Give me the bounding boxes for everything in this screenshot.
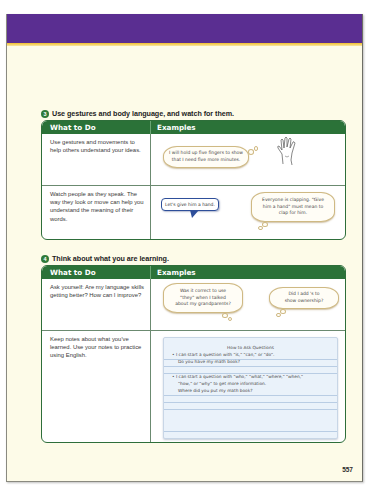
table-row: Use gestures and movements to help other…	[42, 134, 345, 185]
open-hand-icon	[275, 136, 297, 166]
column-header-what-to-do: What to Do	[42, 121, 151, 134]
thinking-table: What to Do Examples Ask yourself: Are my…	[41, 265, 346, 443]
step-number-badge: 4	[41, 255, 49, 263]
notes-line: Where did you put my math book?	[172, 387, 329, 394]
table-header: What to Do Examples	[42, 121, 345, 134]
table-row: Keep notes about what you've learned. Us…	[42, 330, 345, 443]
thought-bubble: I will hold up five fingers to show that…	[163, 146, 249, 168]
notes-title: How to Ask Questions	[172, 344, 329, 351]
banner-stripe	[7, 43, 362, 46]
examples-cell: Let's give him a hand. Everyone is clapp…	[151, 186, 345, 240]
column-header-examples: Examples	[151, 121, 345, 134]
thought-bubble: Was it correct to use "they" when I talk…	[163, 283, 243, 313]
section-3-heading: 3 Use gestures and body language, and wa…	[41, 109, 234, 118]
section-3-title: Use gestures and body language, and watc…	[52, 109, 234, 118]
thought-bubble: Everyone is clapping. "Give him a hand" …	[251, 192, 335, 222]
notes-page: How to Ask Questions • I can start a que…	[163, 337, 338, 439]
table-header: What to Do Examples	[42, 266, 345, 279]
table-row: Watch people as they speak. The way they…	[42, 185, 345, 240]
what-to-do-cell: Use gestures and movements to help other…	[42, 134, 151, 185]
examples-cell: I will hold up five fingers to show that…	[151, 134, 345, 185]
notes-line: • I can start a question with "who," "wh…	[172, 373, 329, 380]
examples-cell: How to Ask Questions • I can start a que…	[151, 331, 345, 443]
what-to-do-cell: Keep notes about what you've learned. Us…	[42, 331, 151, 443]
column-header-examples: Examples	[151, 266, 345, 279]
speech-bubble: Let's give him a hand.	[161, 198, 219, 211]
notes-line: Do you have my math book?	[172, 358, 329, 365]
what-to-do-cell: Ask yourself: Are my language skills get…	[42, 279, 151, 330]
textbook-page: 3 Use gestures and body language, and wa…	[6, 14, 363, 482]
what-to-do-cell: Watch people as they speak. The way they…	[42, 186, 151, 240]
thought-bubble: Did I add 's to show ownership?	[269, 287, 339, 309]
page-number: 557	[342, 466, 353, 473]
section-4-title: Think about what you are learning.	[52, 254, 169, 263]
examples-cell: Was it correct to use "they" when I talk…	[151, 279, 345, 330]
section-4-heading: 4 Think about what you are learning.	[41, 254, 169, 263]
step-number-badge: 3	[41, 110, 49, 118]
table-row: Ask yourself: Are my language skills get…	[42, 279, 345, 330]
notes-line: "how," or "why" to get more information.	[172, 380, 329, 387]
page-banner	[7, 14, 362, 43]
notes-line: • I can start a question with "is," "can…	[172, 351, 329, 358]
column-header-what-to-do: What to Do	[42, 266, 151, 279]
gestures-table: What to Do Examples Use gestures and mov…	[41, 120, 346, 240]
